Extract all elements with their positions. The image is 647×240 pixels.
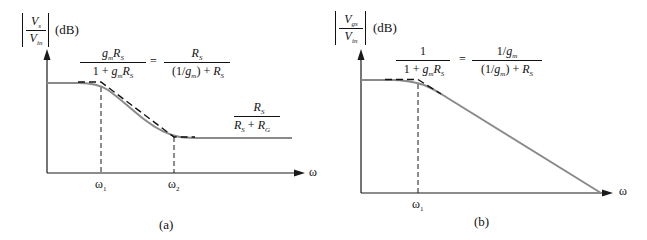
- y-axis-arrow-icon: [44, 49, 51, 60]
- tick-omega1-a: ω1: [95, 177, 106, 193]
- response-curve-b: [361, 80, 601, 193]
- y-unit-b: (dB): [373, 20, 397, 36]
- x-axis-label-a: ω: [309, 165, 317, 180]
- y-den-b: V: [345, 29, 352, 43]
- asymptote-a: [78, 82, 195, 137]
- caption-a: (a): [159, 217, 173, 233]
- x-axis-arrow-icon: [602, 190, 613, 197]
- y-unit-a: (dB): [55, 22, 79, 38]
- tick-omega1-b: ω1: [412, 197, 423, 213]
- y-den-a: V: [30, 31, 37, 45]
- y-axis-arrow-icon: [358, 49, 365, 60]
- x-axis-label-b: ω: [619, 184, 627, 199]
- bode-diagram-figure: [0, 0, 647, 240]
- x-axis-arrow-icon: [294, 170, 305, 177]
- caption-b: (b): [474, 214, 489, 230]
- y-num-b: V: [344, 12, 351, 26]
- tick-omega2-a: ω2: [168, 177, 179, 193]
